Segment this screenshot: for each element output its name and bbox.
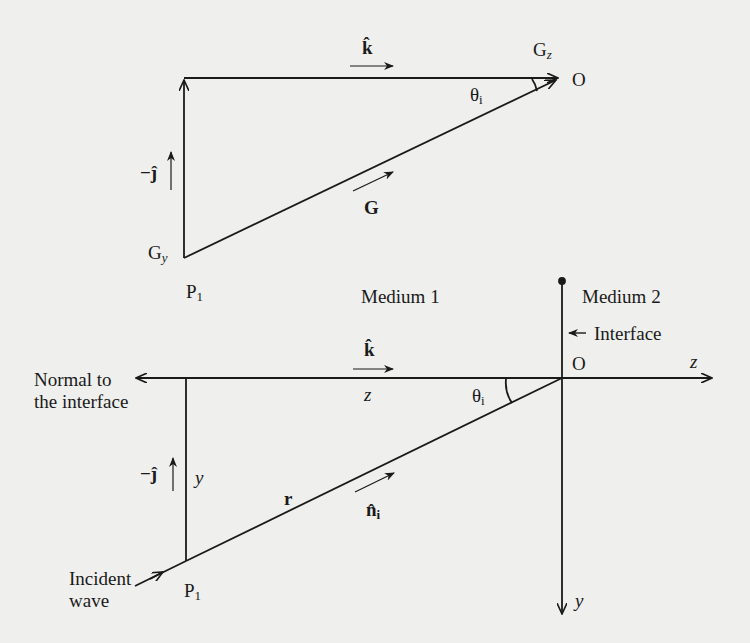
top-gy-label: Gy xyxy=(148,243,168,264)
theta-sub: i xyxy=(481,393,485,408)
top-origin-label: O xyxy=(572,70,586,89)
unit-n-label: n̂i xyxy=(366,500,380,521)
bottom-y-label: y xyxy=(195,468,203,487)
normal-line2: the interface xyxy=(34,391,128,413)
p1-sub: 1 xyxy=(197,289,204,304)
p1-letter: P xyxy=(184,580,195,601)
top-neg-j-label: −ĵ xyxy=(140,163,157,182)
diagram-canvas: k̂ Gz O θi −ĵ G Gy P1 Medium 1 Medium 2 … xyxy=(0,0,750,643)
medium2-label: Medium 2 xyxy=(582,287,661,306)
gy-letter: G xyxy=(148,242,162,263)
bottom-neg-j-label: −ĵ xyxy=(140,464,157,483)
interface-label: Interface xyxy=(594,324,662,343)
theta-letter: θ xyxy=(470,84,479,105)
incident-line1: Incident xyxy=(69,568,131,590)
diagram-lines xyxy=(0,0,750,643)
top-g-vector xyxy=(184,80,556,258)
theta-letter: θ xyxy=(472,385,481,406)
top-gz-label: Gz xyxy=(533,40,552,61)
medium1-label: Medium 1 xyxy=(361,287,440,306)
incident-line2: wave xyxy=(69,590,131,612)
normal-to-interface-label: Normal tothe interface xyxy=(34,369,128,413)
bottom-origin-label: O xyxy=(572,354,586,373)
bottom-unit-k-label: k̂ xyxy=(364,340,375,359)
n-sub: i xyxy=(377,507,381,522)
p1-letter: P xyxy=(186,281,197,302)
bottom-z-label: z xyxy=(364,385,371,404)
gz-letter: G xyxy=(533,39,547,60)
bottom-p1-label: P1 xyxy=(184,581,201,602)
normal-line1: Normal to xyxy=(34,369,128,391)
gy-sub: y xyxy=(162,250,168,265)
top-theta-arc xyxy=(532,79,537,91)
bottom-theta-label: θi xyxy=(472,386,485,407)
bottom-theta-arc xyxy=(506,379,512,403)
interface-top-dot xyxy=(559,278,565,284)
z-axis-label: z xyxy=(690,352,697,371)
top-unit-k-label: k̂ xyxy=(362,38,373,57)
n-letter: n̂ xyxy=(366,499,377,520)
vector-r-label: r xyxy=(284,489,292,508)
top-vector-g-label: G xyxy=(364,198,379,217)
bottom-r-vector xyxy=(186,378,562,561)
y-axis-label: y xyxy=(575,591,583,610)
top-theta-label: θi xyxy=(470,85,483,106)
top-p1-label: P1 xyxy=(186,282,203,303)
p1-sub: 1 xyxy=(195,588,202,603)
gz-sub: z xyxy=(547,47,552,62)
theta-sub: i xyxy=(479,92,483,107)
incident-wave-label: Incidentwave xyxy=(69,568,131,612)
